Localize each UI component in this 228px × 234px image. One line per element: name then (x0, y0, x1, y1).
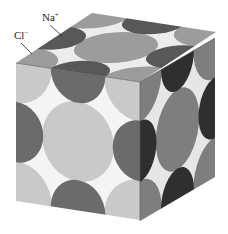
cl-label-text: Cl (14, 29, 24, 41)
cl-leader-line (21, 43, 32, 54)
na-label-text: Na (42, 11, 55, 23)
label-cl: Cl− (14, 29, 32, 54)
nacl-cube-diagram: Na+ Cl− (0, 0, 228, 234)
cl-charge: − (24, 29, 28, 37)
na-charge: + (55, 11, 59, 19)
label-na: Na+ (42, 11, 62, 36)
svg-text:Na+: Na+ (42, 11, 59, 23)
svg-text:Cl−: Cl− (14, 29, 28, 41)
na-leader-line (50, 25, 62, 36)
